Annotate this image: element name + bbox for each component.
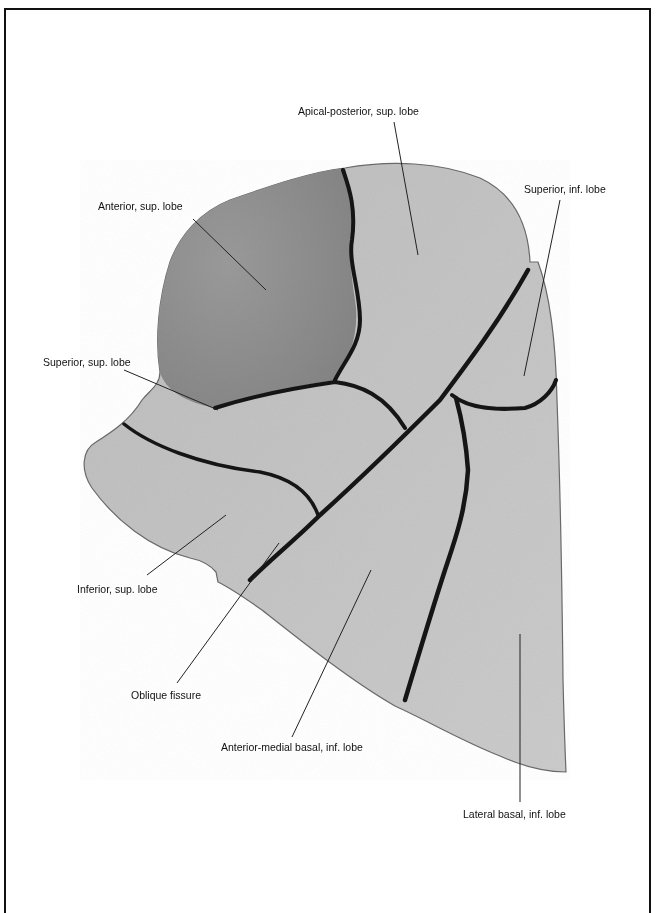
specimen-silhouette [80,160,570,780]
label-inferior-sup-lobe: Inferior, sup. lobe [77,583,158,595]
label-superior-inf-lobe: Superior, inf. lobe [524,183,606,195]
label-lateral-basal-inf-lobe: Lateral basal, inf. lobe [463,808,566,820]
label-anterior-medial-basal-inf-lobe: Anterior-medial basal, inf. lobe [221,741,363,753]
label-oblique-fissure: Oblique fissure [131,689,201,701]
label-apical-posterior-sup-lobe: Apical-posterior, sup. lobe [298,105,419,117]
label-superior-sup-lobe: Superior, sup. lobe [43,356,131,368]
label-anterior-sup-lobe: Anterior, sup. lobe [98,200,183,212]
